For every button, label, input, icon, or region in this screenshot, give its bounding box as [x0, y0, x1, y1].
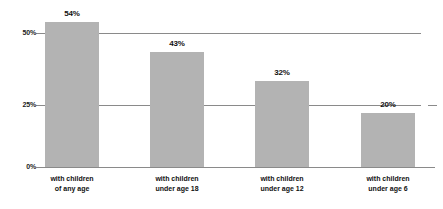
category-label-1-line2: under age 18	[127, 184, 227, 194]
category-label-1: with children under age 18	[127, 174, 227, 194]
bar-3[interactable]	[361, 113, 415, 167]
bar-0[interactable]	[45, 22, 99, 167]
category-label-2-line1: with children	[260, 175, 303, 182]
bar-1[interactable]	[150, 52, 204, 167]
category-label-0-line2: of any age	[22, 184, 122, 194]
category-label-2: with children under age 12	[232, 174, 332, 194]
category-label-0-line1: with children	[50, 175, 93, 182]
y-axis-tick-label-0: 0%	[4, 163, 36, 170]
x-axis-baseline	[36, 167, 435, 168]
bar-value-label-1: 43%	[140, 39, 214, 48]
category-label-3: with children under age 6	[338, 174, 438, 194]
plot-area: 50% 25% 0% 54% 43% 32% 20% with children…	[0, 0, 443, 209]
category-label-2-line2: under age 12	[232, 184, 332, 194]
bar-chart: 50% 25% 0% 54% 43% 32% 20% with children…	[0, 0, 443, 209]
bar-value-label-0: 54%	[35, 9, 109, 18]
category-label-1-line1: with children	[155, 175, 198, 182]
bar-2[interactable]	[255, 81, 309, 167]
y-axis-tick-label-50: 50%	[4, 29, 36, 36]
y-axis-tick-label-25: 25%	[4, 101, 36, 108]
category-label-0: with children of any age	[22, 174, 122, 194]
right-axis-tick-25	[428, 105, 437, 106]
bar-value-label-2: 32%	[245, 68, 319, 77]
category-label-3-line2: under age 6	[338, 184, 438, 194]
category-label-3-line1: with children	[366, 175, 409, 182]
bar-value-label-3: 20%	[351, 100, 425, 109]
